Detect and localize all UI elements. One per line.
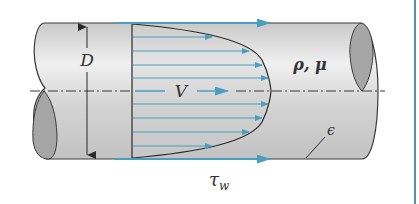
- wall-shear-subscript: w: [219, 179, 230, 193]
- wall-shear-label: τw: [209, 169, 230, 193]
- roughness-label: ϵ: [327, 122, 335, 138]
- mean-velocity-label: V: [175, 81, 189, 101]
- fluid-properties-label: ρ, μ: [292, 55, 327, 74]
- diameter-label: D: [79, 50, 94, 70]
- pipe-flow-diagram: D V ρ, μ ϵ τw: [0, 0, 419, 204]
